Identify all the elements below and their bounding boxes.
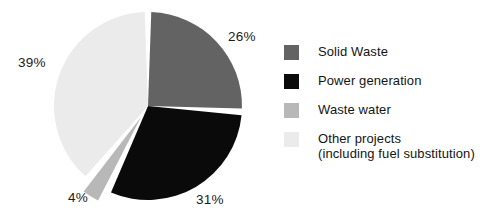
legend-item[interactable]: Other projects (including fuel substitut… — [284, 131, 484, 161]
legend-item[interactable]: Waste water — [284, 102, 484, 118]
pie-slice[interactable] — [148, 12, 242, 109]
pie-chart-figure: 26% 39% 4% 31% Solid WastePower generati… — [0, 0, 486, 222]
chart-legend: Solid WastePower generationWaste waterOt… — [284, 44, 484, 161]
legend-item[interactable]: Power generation — [284, 73, 484, 89]
legend-item-label: Power generation — [318, 73, 422, 88]
legend-item[interactable]: Solid Waste — [284, 44, 484, 60]
data-label-solid-waste: 26% — [228, 30, 256, 44]
data-label-other-projects: 39% — [18, 56, 46, 70]
legend-item-label: Other projects (including fuel substitut… — [318, 131, 475, 161]
legend-swatch-icon — [284, 74, 299, 89]
data-label-power-generation: 31% — [196, 193, 224, 207]
pie-slice-group — [54, 12, 242, 201]
pie-plot-area: 26% 39% 4% 31% — [0, 0, 270, 222]
legend-swatch-icon — [284, 132, 299, 147]
legend-item-label: Waste water — [318, 102, 391, 117]
legend-item-label: Solid Waste — [318, 44, 388, 59]
legend-swatch-icon — [284, 103, 299, 118]
legend-swatch-icon — [284, 45, 299, 60]
data-label-waste-water: 4% — [68, 191, 88, 205]
